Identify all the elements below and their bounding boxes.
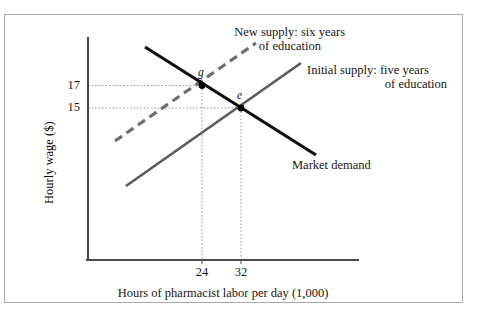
curve-market-demand: [145, 47, 316, 155]
point-label-e: e: [237, 89, 242, 103]
y-tick-label-15: 15: [52, 100, 80, 115]
x-tick-label-24: 24: [186, 265, 218, 280]
curve-label-new-supply-line1: New supply: six years: [170, 25, 345, 40]
x-axis-title: Hours of pharmacist labor per day (1,000…: [63, 286, 383, 301]
curve-label-market-demand: Market demand: [292, 158, 371, 173]
point-label-g: g: [198, 66, 204, 80]
guide-lines: [88, 86, 241, 261]
curve-new-supply: [115, 43, 256, 141]
x-tick-label-32: 32: [225, 265, 257, 280]
point-marker-e: [238, 105, 245, 112]
y-tick-label-17: 17: [52, 78, 80, 93]
y-axis-title: Hourly wage ($): [42, 121, 57, 204]
curve-label-new-supply-line2: of education: [170, 39, 321, 54]
figure-root: 17 15 24 32 Hourly wage ($) Hours of pha…: [0, 0, 488, 317]
curve-label-initial-supply-line1: Initial supply: five years: [307, 63, 429, 78]
point-marker-g: [199, 82, 206, 89]
curve-initial-supply: [126, 63, 301, 186]
curve-label-initial-supply-line2: of education: [307, 77, 447, 92]
